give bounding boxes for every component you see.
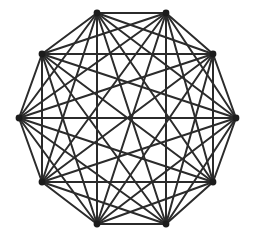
- graph-vertex-v3: [210, 51, 217, 58]
- graph-vertex-v2: [163, 10, 170, 17]
- graph-vertex-v9: [16, 115, 23, 122]
- graph-vertex-v10: [39, 51, 46, 58]
- figure-container: [0, 0, 255, 239]
- graph-vertex-v5: [210, 179, 217, 186]
- graph-vertex-v6: [163, 221, 170, 228]
- graph-vertex-v4: [233, 115, 240, 122]
- complete-graph-k10-diagram: [0, 0, 255, 239]
- graph-vertex-v7: [94, 221, 101, 228]
- graph-vertex-v1: [94, 10, 101, 17]
- graph-vertex-v8: [39, 179, 46, 186]
